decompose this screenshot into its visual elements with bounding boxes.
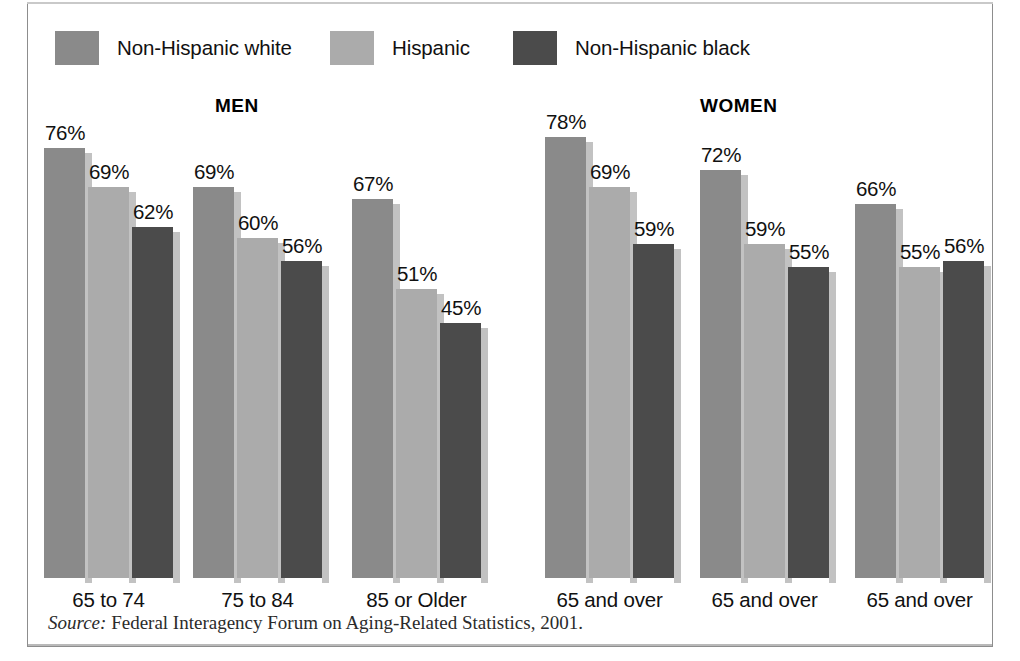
source-text: Federal Interagency Forum on Aging-Relat… <box>111 612 583 633</box>
bar-women-0-2[interactable] <box>633 244 674 578</box>
bar-value-label: 56% <box>282 234 322 258</box>
bar-value-label: 66% <box>856 177 896 201</box>
bar-value-label: 59% <box>745 217 785 241</box>
bar-men-1-0[interactable] <box>193 187 234 578</box>
source-note: Source: Federal Interagency Forum on Agi… <box>48 612 583 634</box>
bar-value-label: 55% <box>789 240 829 264</box>
group-label: 85 or Older <box>322 588 511 612</box>
bar-men-2-0[interactable] <box>352 199 393 578</box>
bar-value-label: 51% <box>397 262 437 286</box>
panel-title-women: WOMEN <box>700 95 777 117</box>
bar-value-label: 62% <box>133 200 173 224</box>
panel-title-men: MEN <box>215 95 259 117</box>
bar-value-label: 76% <box>45 121 85 145</box>
bar-women-2-2[interactable] <box>943 261 984 578</box>
bar-value-label: 72% <box>701 143 741 167</box>
bar-shadow <box>984 266 991 583</box>
plot-area: MENWOMEN76%69%62%65 to 7469%60%56%75 to … <box>0 0 1020 661</box>
bar-women-2-1[interactable] <box>899 267 940 578</box>
bar-men-1-1[interactable] <box>237 238 278 578</box>
source-prefix: Source: <box>48 612 106 633</box>
bar-shadow <box>173 232 180 583</box>
bar-men-2-2[interactable] <box>440 323 481 578</box>
bar-value-label: 69% <box>590 160 630 184</box>
figure-root: Non-Hispanic whiteHispanicNon-Hispanic b… <box>0 0 1020 661</box>
bar-value-label: 78% <box>546 110 586 134</box>
bar-value-label: 59% <box>634 217 674 241</box>
bar-value-label: 45% <box>441 296 481 320</box>
source-divider <box>28 644 992 646</box>
bar-shadow <box>481 328 488 583</box>
bar-value-label: 69% <box>89 160 129 184</box>
bar-value-label: 60% <box>238 211 278 235</box>
bar-men-0-2[interactable] <box>132 227 173 578</box>
bar-value-label: 67% <box>353 172 393 196</box>
bar-men-0-0[interactable] <box>44 148 85 578</box>
bar-women-0-1[interactable] <box>589 187 630 578</box>
bar-women-2-0[interactable] <box>855 204 896 578</box>
bar-shadow <box>322 266 329 583</box>
bar-value-label: 69% <box>194 160 234 184</box>
bar-value-label: 56% <box>944 234 984 258</box>
bar-men-0-1[interactable] <box>88 187 129 578</box>
bar-shadow <box>829 272 836 583</box>
bar-men-1-2[interactable] <box>281 261 322 578</box>
bar-women-1-0[interactable] <box>700 170 741 578</box>
bar-value-label: 55% <box>900 240 940 264</box>
bar-men-2-1[interactable] <box>396 289 437 578</box>
bar-women-0-0[interactable] <box>545 137 586 578</box>
bar-women-1-2[interactable] <box>788 267 829 578</box>
bar-shadow <box>674 249 681 583</box>
bar-women-1-1[interactable] <box>744 244 785 578</box>
group-label: 65 and over <box>825 588 1014 612</box>
